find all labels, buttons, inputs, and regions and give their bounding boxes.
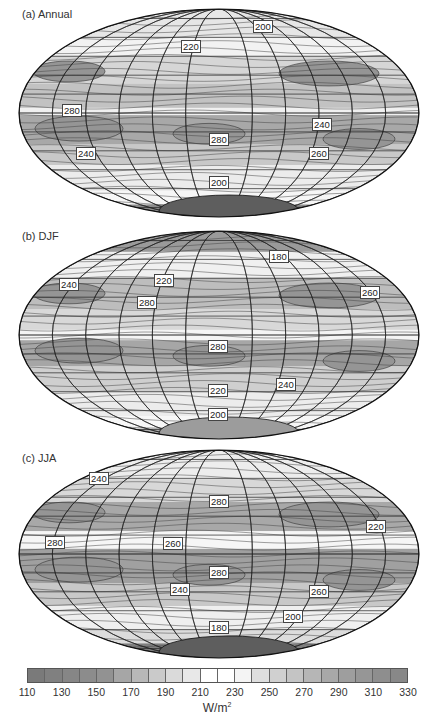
contour-label: 260 (309, 147, 329, 160)
contour-label: 180 (209, 621, 229, 634)
contour-label: 200 (283, 610, 303, 623)
colorbar-bin (183, 669, 200, 682)
contour-label: 280 (209, 566, 229, 579)
panel-title-djf: (b) DJF (22, 230, 59, 242)
contour-label: 280 (62, 104, 82, 117)
contour-label: 220 (208, 384, 228, 397)
colorbar-bin (287, 669, 304, 682)
colorbar-bin (114, 669, 131, 682)
colorbar-bin (201, 669, 218, 682)
panel-title-annual: (a) Annual (22, 8, 72, 20)
colorbar-tick-label: 290 (330, 686, 348, 698)
contour-label: 220 (366, 520, 386, 533)
contour-label: 220 (154, 274, 174, 287)
colorbar-tick-label: 270 (295, 686, 313, 698)
contour-label: 180 (269, 250, 289, 263)
colorbar-tick-label: 210 (191, 686, 209, 698)
colorbar-bin (28, 669, 45, 682)
colorbar-bin (356, 669, 373, 682)
colorbar-tick-label: 110 (19, 686, 36, 698)
colorbar-unit-label: W/m2 (0, 701, 434, 715)
contour-label: 240 (170, 583, 190, 596)
colorbar-bin (322, 669, 339, 682)
contour-label: 280 (209, 495, 229, 508)
colorbar-tick-label: 170 (122, 686, 140, 698)
colorbar-bin (97, 669, 114, 682)
colorbar-bin (80, 669, 97, 682)
colorbar-tick-label: 310 (365, 686, 383, 698)
colorbar-bin (339, 669, 356, 682)
panel-djf: (b) DJF 180240220280260280220240200 (0, 222, 434, 444)
unit-text: W/m (203, 701, 228, 715)
contour-label: 260 (309, 585, 329, 598)
colorbar-tick-label: 130 (53, 686, 71, 698)
contour-label: 280 (208, 340, 228, 353)
colorbar-tick-label: 230 (226, 686, 244, 698)
colorbar-bin (166, 669, 183, 682)
contour-label: 200 (208, 408, 228, 421)
colorbar-bin (270, 669, 287, 682)
unit-superscript: 2 (227, 701, 231, 708)
contour-label: 240 (276, 378, 296, 391)
contour-label: 220 (181, 40, 201, 53)
contour-label: 260 (163, 537, 183, 550)
colorbar-bin (149, 669, 166, 682)
colorbar-bin (63, 669, 80, 682)
contour-label: 240 (89, 472, 109, 485)
colorbar-ticks: 110130150170190210230250270290310330 (0, 686, 434, 700)
colorbar-tick-label: 150 (88, 686, 106, 698)
contour-label: 240 (76, 147, 96, 160)
contour-label: 280 (45, 536, 65, 549)
colorbar (27, 668, 408, 683)
colorbar-bin (391, 669, 407, 682)
contour-label: 200 (253, 20, 273, 33)
contour-label: 240 (312, 118, 332, 131)
colorbar-bin (304, 669, 321, 682)
colorbar-bin (252, 669, 269, 682)
colorbar-bin (132, 669, 149, 682)
contour-label: 200 (209, 176, 229, 189)
contour-label: 260 (360, 286, 380, 299)
panel-title-jja: (c) JJA (22, 452, 56, 464)
colorbar-bin (373, 669, 390, 682)
panel-jja: (c) JJA 240280220280260280240260200180 (0, 444, 434, 666)
colorbar-tick-label: 250 (261, 686, 279, 698)
contour-label: 240 (59, 278, 79, 291)
colorbar-bin (235, 669, 252, 682)
contour-label: 280 (137, 296, 157, 309)
colorbar-bin (45, 669, 62, 682)
colorbar-tick-label: 190 (157, 686, 175, 698)
colorbar-bin (218, 669, 235, 682)
colorbar-tick-label: 330 (399, 686, 417, 698)
contour-label: 280 (209, 133, 229, 146)
panel-annual: (a) Annual 200220280280240240260200 (0, 0, 434, 222)
